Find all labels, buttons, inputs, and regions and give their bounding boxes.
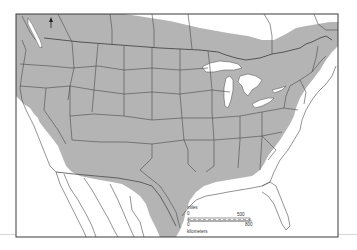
scale-km-label: kilometers: [187, 229, 208, 234]
scale-miles-label: miles: [187, 205, 198, 210]
range-map: miles 0 500 0 800 kilometers: [0, 0, 357, 250]
scale-km-end: 800: [245, 222, 253, 227]
scale-miles-end: 500: [237, 212, 245, 217]
